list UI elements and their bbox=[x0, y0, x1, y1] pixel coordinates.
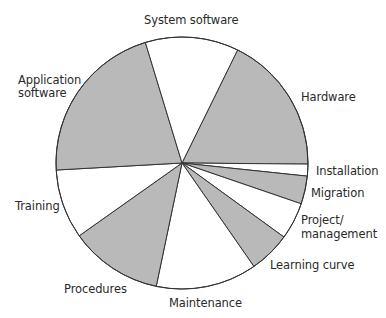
label-learning-curve: Learning curve bbox=[270, 259, 354, 272]
label-maintenance: Maintenance bbox=[169, 297, 242, 310]
label-migration: Migration bbox=[311, 187, 364, 200]
label-training: Training bbox=[15, 200, 60, 213]
label-project-management-line1: Project/ bbox=[301, 214, 343, 227]
label-hardware: Hardware bbox=[301, 91, 356, 104]
label-system-software: System software bbox=[144, 14, 238, 27]
label-procedures: Procedures bbox=[64, 283, 127, 296]
label-application-software-line2: software bbox=[18, 87, 67, 100]
label-installation: Installation bbox=[316, 165, 379, 178]
label-project-management-line2: management bbox=[301, 228, 377, 241]
